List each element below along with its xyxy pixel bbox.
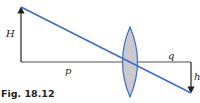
label-object-height: H [5, 28, 15, 39]
label-object-distance: p [65, 65, 72, 76]
label-image-distance: q [168, 50, 174, 61]
figure-caption: Fig. 18.12 [1, 88, 55, 99]
light-ray [21, 7, 191, 93]
label-image-height: h [194, 71, 200, 82]
